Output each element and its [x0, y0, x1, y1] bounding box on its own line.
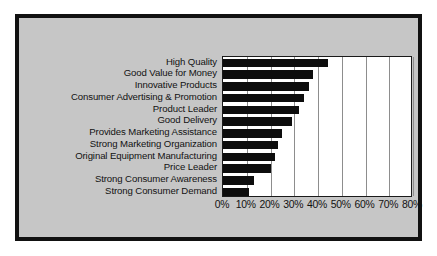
bar: [223, 106, 299, 114]
category-label: High Quality: [37, 57, 217, 67]
category-label: Original Equipment Manufacturing: [37, 151, 217, 161]
category-label: Good Value for Money: [37, 68, 217, 78]
x-tick-label: 0%: [215, 199, 230, 211]
category-label: Price Leader: [37, 162, 217, 172]
category-label: Strong Marketing Organization: [37, 139, 217, 149]
category-label: Product Leader: [37, 104, 217, 114]
x-axis-tick-labels: 0%10%20%30%40%50%60%70%80%: [222, 199, 412, 215]
category-label: Consumer Advertising & Promotion: [37, 92, 217, 102]
bar: [223, 70, 313, 78]
category-label: Good Delivery: [37, 115, 217, 125]
category-label: Innovative Products: [37, 80, 217, 90]
bar: [223, 82, 309, 90]
category-label: Strong Consumer Awareness: [37, 174, 217, 184]
category-label: Strong Consumer Demand: [37, 186, 217, 196]
bar: [223, 117, 292, 125]
y-axis-category-labels: High QualityGood Value for MoneyInnovati…: [37, 56, 220, 197]
bar: [223, 188, 249, 196]
x-tick-label: 30%: [283, 199, 303, 211]
chart-figure: High QualityGood Value for MoneyInnovati…: [0, 0, 437, 256]
bar: [223, 94, 304, 102]
chart-frame: High QualityGood Value for MoneyInnovati…: [15, 14, 422, 241]
gridline: [413, 57, 414, 196]
bar: [223, 59, 328, 67]
bar: [223, 153, 275, 161]
x-tick-label: 10%: [236, 199, 256, 211]
x-tick-label: 70%: [378, 199, 398, 211]
x-tick-label: 40%: [307, 199, 327, 211]
bar: [223, 176, 254, 184]
bar: [223, 164, 271, 172]
x-tick-label: 50%: [331, 199, 351, 211]
category-label: Provides Marketing Assistance: [37, 127, 217, 137]
bar: [223, 129, 282, 137]
x-tick-label: 80%: [402, 199, 422, 211]
bar-series: [223, 57, 411, 196]
x-tick-label: 20%: [259, 199, 279, 211]
x-tick-label: 60%: [354, 199, 374, 211]
plot-area: [222, 56, 412, 197]
bar: [223, 141, 278, 149]
